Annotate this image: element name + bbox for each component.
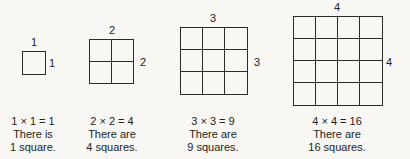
caption-equation: 3 × 3 = 9 [187, 115, 238, 128]
side-dimension-label: 3 [254, 56, 260, 68]
caption: 1 × 1 = 1 There is 1 square. [10, 115, 56, 154]
side-dimension-label: 1 [49, 57, 55, 69]
grid-cell [181, 28, 203, 50]
caption-line3: 4 squares. [86, 141, 137, 154]
side-dimension-label: 2 [140, 56, 146, 68]
grid-cell [316, 17, 338, 39]
grid-cell [360, 39, 382, 61]
grid-3x3 [180, 27, 248, 95]
grid-cell [203, 50, 225, 72]
caption-line3: 1 square. [10, 141, 56, 154]
caption: 4 × 4 = 16 There are 16 squares. [308, 115, 365, 154]
top-dimension-label: 3 [210, 12, 216, 24]
grid-cell [90, 40, 112, 62]
grid-cell [338, 39, 360, 61]
top-dimension-label: 1 [31, 36, 37, 48]
grid-cell [225, 28, 247, 50]
grid-cell [316, 39, 338, 61]
grid-cell [294, 17, 316, 39]
caption-equation: 2 × 2 = 4 [86, 115, 137, 128]
caption-line3: 16 squares. [308, 141, 365, 154]
grid-cell [203, 72, 225, 94]
grid-cell [203, 28, 225, 50]
grid-cell [294, 39, 316, 61]
caption: 2 × 2 = 4 There are 4 squares. [86, 115, 137, 154]
grid-4x4 [293, 16, 383, 106]
grid-cell [112, 62, 134, 84]
caption-line2: There are [86, 128, 137, 141]
caption-line2: There are [187, 128, 238, 141]
grid-cell [294, 61, 316, 83]
grid-cell [338, 83, 360, 105]
caption: 3 × 3 = 9 There are 9 squares. [187, 115, 238, 154]
grid-cell [112, 40, 134, 62]
grid-cell [225, 50, 247, 72]
caption-line3: 9 squares. [187, 141, 238, 154]
side-dimension-label: 4 [386, 56, 392, 68]
grid-cell [181, 72, 203, 94]
grid-cell [316, 61, 338, 83]
top-dimension-label: 2 [109, 24, 115, 36]
top-dimension-label: 4 [334, 1, 340, 13]
grid-cell [360, 61, 382, 83]
grid-cell [225, 72, 247, 94]
grid-2x2 [89, 39, 134, 84]
grid-cell [23, 52, 45, 74]
grid-cell [338, 17, 360, 39]
caption-line2: There is [10, 128, 56, 141]
grid-cell [294, 83, 316, 105]
caption-equation: 1 × 1 = 1 [10, 115, 56, 128]
grid-1x1 [22, 51, 46, 75]
grid-cell [338, 61, 360, 83]
grid-cell [90, 62, 112, 84]
caption-equation: 4 × 4 = 16 [308, 115, 365, 128]
caption-line2: There are [308, 128, 365, 141]
grid-cell [360, 17, 382, 39]
grid-cell [316, 83, 338, 105]
grid-cell [181, 50, 203, 72]
grid-cell [360, 83, 382, 105]
